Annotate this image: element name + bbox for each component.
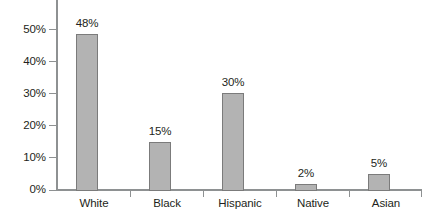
y-axis-tick: [49, 157, 56, 158]
x-axis-tick: [349, 191, 350, 197]
y-axis-tick: [49, 190, 56, 191]
bar-value-hispanic: 30%: [222, 76, 245, 88]
y-axis-label-10: 10%: [23, 152, 46, 164]
y-axis-label-40: 40%: [23, 56, 46, 68]
x-axis-category-black: Black: [153, 197, 181, 210]
bar-value-white: 48%: [76, 17, 99, 29]
bar-value-black: 15%: [149, 125, 172, 137]
bar-chart: 0% 10% 20% 30% 40% 50% 48% 15% 30% 2% 5%…: [0, 0, 427, 222]
bar-value-native: 2%: [298, 167, 314, 179]
bar-black: [149, 142, 171, 191]
y-axis-tick: [49, 125, 56, 126]
x-axis-tick: [421, 191, 422, 197]
bar-asian: [368, 174, 390, 191]
y-axis-label-50: 50%: [23, 24, 46, 36]
bar-white: [76, 34, 98, 191]
y-axis-label-0: 0%: [30, 184, 46, 196]
y-axis-tick: [49, 29, 56, 30]
bar-native: [295, 184, 317, 191]
y-axis-tick: [49, 93, 56, 94]
y-axis-label-20: 20%: [23, 120, 46, 132]
x-axis-category-hispanic: Hispanic: [218, 197, 261, 210]
x-axis-tick: [203, 191, 204, 197]
bar-hispanic: [222, 93, 244, 191]
x-axis-tick: [130, 191, 131, 197]
y-axis-line: [56, 0, 58, 191]
x-axis-category-white: White: [80, 197, 109, 210]
y-axis-label-30: 30%: [23, 88, 46, 100]
x-axis-category-asian: Asian: [372, 197, 400, 210]
bar-value-asian: 5%: [371, 157, 387, 169]
x-axis-category-native: Native: [297, 197, 329, 210]
y-axis-tick: [49, 61, 56, 62]
x-axis-tick: [276, 191, 277, 197]
